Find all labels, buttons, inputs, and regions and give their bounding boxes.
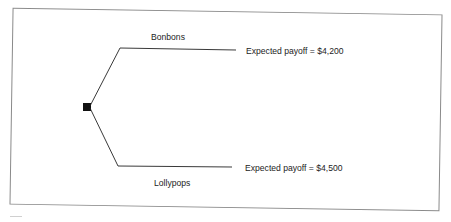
outcome-label-lollypops: Expected payoff = $4,500 (245, 164, 343, 173)
decision-node-square-icon (83, 103, 91, 111)
branch-line-bonbons (90, 48, 236, 106)
branch-line-lollypops (90, 108, 232, 167)
branch-label-bonbons: Bonbons (151, 33, 185, 42)
branch-label-lollypops: Lollypops (154, 179, 190, 188)
cropped-caption-fragment (10, 216, 22, 222)
outcome-label-bonbons: Expected payoff = $4,200 (246, 47, 344, 56)
decision-tree-lines (0, 0, 451, 222)
